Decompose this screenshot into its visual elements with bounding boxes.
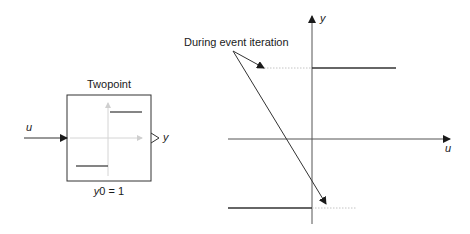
output-label: y [162, 131, 170, 143]
block-title: Twopoint [87, 78, 131, 90]
y-axis-label: y [319, 12, 327, 24]
input-label: u [26, 121, 32, 133]
output-port-icon [151, 133, 159, 143]
annotation-text: During event iteration [184, 36, 289, 48]
twopoint-diagram: Twopoint u y y0 = 1 y u During event ite… [0, 0, 470, 234]
block-parameter: y0 = 1 [93, 185, 124, 197]
u-axis-label: u [445, 142, 451, 154]
twopoint-block: Twopoint u y y0 = 1 [24, 78, 170, 197]
parameter-text: 0 = 1 [99, 185, 124, 197]
characteristic-graph: y u During event iteration [184, 12, 451, 224]
